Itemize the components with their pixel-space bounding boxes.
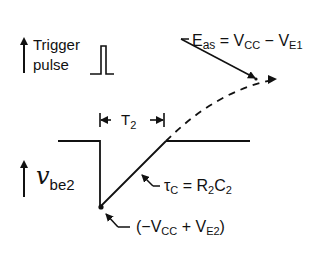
pulse-label: pulse xyxy=(33,56,69,73)
tau-leader-arrow xyxy=(142,175,153,186)
t2-dimension: T2 xyxy=(100,111,164,131)
eas-equation: Eas = VCC − VE1 xyxy=(192,32,303,52)
vbe2-axis-arrow-icon xyxy=(20,160,28,197)
asymptote-arrow-icon xyxy=(268,75,277,84)
asymptote-dashed-curve xyxy=(166,80,272,141)
trigger-axis-arrow-icon xyxy=(20,37,28,73)
monostable-waveform-diagram: Trigger pulse T2 vbe2 Eas = VCC − VE1 τC… xyxy=(0,0,326,260)
minimum-point-dot xyxy=(98,204,103,209)
t2-label: T2 xyxy=(121,111,136,131)
tau-equation: τC = R2C2 xyxy=(164,177,232,196)
min-voltage-equation: (−VCC + VE2) xyxy=(136,218,225,237)
trigger-pulse-waveform xyxy=(90,46,114,74)
vbe2-waveform-solid xyxy=(58,141,166,207)
trigger-label: Trigger xyxy=(33,36,80,53)
min-leader-arrow xyxy=(106,214,118,227)
vbe2-label: vbe2 xyxy=(36,162,75,193)
